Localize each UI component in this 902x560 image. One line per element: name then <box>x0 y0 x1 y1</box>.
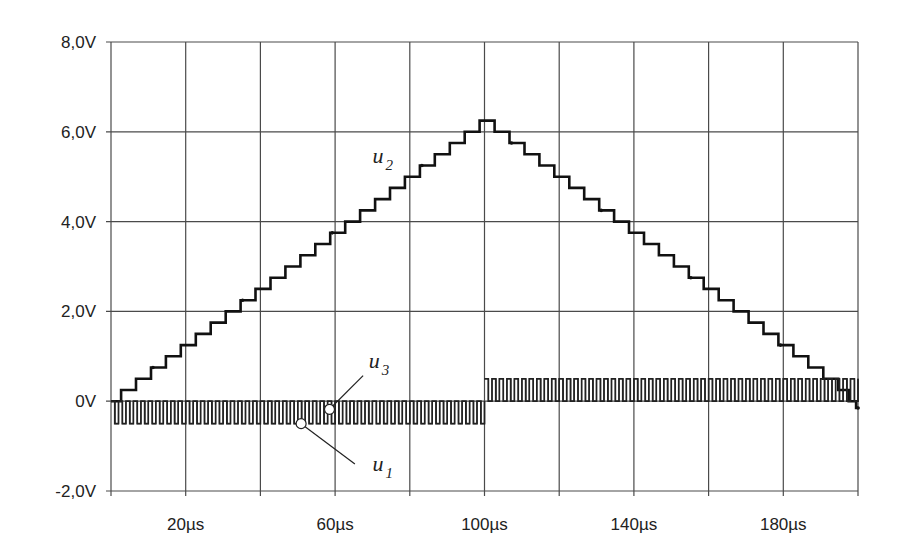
data-marker <box>779 343 783 347</box>
x-tick-label: 180µs <box>760 515 807 534</box>
y-tick-label: -2,0V <box>55 482 96 501</box>
data-marker <box>420 164 424 168</box>
data-marker <box>151 366 155 370</box>
marker-u3 <box>324 404 334 414</box>
y-tick-label: 2,0V <box>61 302 97 321</box>
x-axis-tick-labels: 20µs60µs100µs140µs180µs <box>167 515 807 534</box>
series-label-u3: u <box>369 348 380 373</box>
series-label-sub-u1: 1 <box>385 465 393 481</box>
chart-series <box>111 121 860 424</box>
y-tick-label: 8,0V <box>61 33 97 52</box>
leader-line-u1 <box>301 424 355 464</box>
y-tick-label: 4,0V <box>61 213 97 232</box>
marker-u1 <box>296 419 306 429</box>
data-marker <box>241 298 245 302</box>
data-marker <box>330 231 334 235</box>
series-label-sub-u2: 2 <box>385 157 393 173</box>
data-marker <box>510 141 514 145</box>
y-tick-label: 6,0V <box>61 123 97 142</box>
series-label-u2: u <box>372 143 383 168</box>
y-axis-tick-labels: 8,0V6,0V4,0V2,0V0V-2,0V <box>55 33 96 501</box>
series-labels: u2u3u1 <box>296 143 393 481</box>
series-label-u1: u <box>372 451 383 476</box>
series-label-sub-u3: 3 <box>381 362 390 378</box>
data-marker <box>689 276 693 280</box>
x-tick-label: 140µs <box>611 515 658 534</box>
chart-figure: 8,0V6,0V4,0V2,0V0V-2,0V 20µs60µs100µs140… <box>0 0 902 560</box>
x-tick-label: 60µs <box>316 515 353 534</box>
series-u1-line <box>485 379 859 401</box>
x-tick-label: 20µs <box>167 515 204 534</box>
chart-grid <box>106 42 858 496</box>
y-tick-label: 0V <box>75 392 96 411</box>
data-marker <box>856 406 860 410</box>
data-marker <box>599 209 603 213</box>
x-tick-label: 100µs <box>461 515 508 534</box>
